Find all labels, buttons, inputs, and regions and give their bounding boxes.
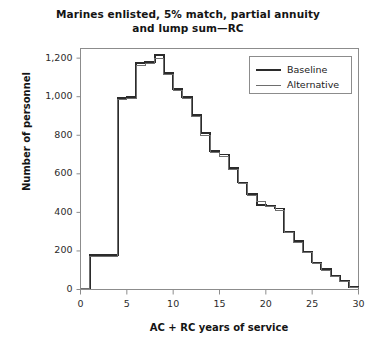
y-tick-label: 600 (25, 167, 73, 178)
legend-label: Alternative (287, 80, 339, 90)
y-tick-label: 800 (25, 129, 73, 140)
legend-item-alternative: Alternative (256, 77, 339, 93)
x-tick-label: 0 (61, 298, 101, 309)
x-tick-label: 10 (153, 298, 193, 309)
legend-swatch-baseline (256, 69, 281, 71)
x-axis-title: AC + RC years of service (80, 322, 358, 333)
legend-label: Baseline (287, 65, 327, 75)
chart-legend: BaselineAlternative (249, 56, 352, 94)
legend-swatch-alternative (256, 85, 281, 86)
x-tick-label: 20 (246, 298, 286, 309)
y-axis-title: Number of personnel (21, 62, 32, 202)
y-tick-label: 1,200 (25, 52, 73, 63)
x-tick-label: 30 (339, 298, 376, 309)
y-tick-label: 200 (25, 244, 73, 255)
y-tick-label: 1,000 (25, 90, 73, 101)
y-tick-label: 0 (25, 283, 73, 294)
x-tick-label: 25 (292, 298, 332, 309)
x-tick-label: 5 (107, 298, 147, 309)
x-tick-label: 15 (200, 298, 240, 309)
chart-figure: Marines enlisted, 5% match, partial annu… (0, 0, 376, 352)
legend-item-baseline: Baseline (256, 62, 327, 78)
y-tick-label: 400 (25, 206, 73, 217)
